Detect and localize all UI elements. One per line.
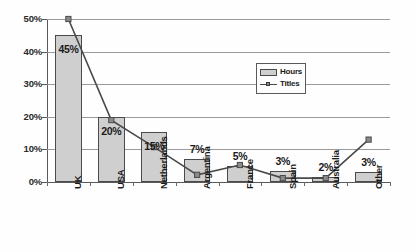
x-axis-tick-mark <box>219 182 220 186</box>
legend-entry-titles: Titles <box>260 78 302 90</box>
x-axis-category-label: Other <box>373 165 384 189</box>
y-axis-tick-label: 0% <box>2 176 42 187</box>
bar-data-label: 20% <box>91 125 131 137</box>
x-axis-tick-mark <box>47 182 48 186</box>
y-axis-tick-label: 40% <box>2 46 42 57</box>
legend-label-titles: Titles <box>280 79 300 89</box>
y-axis-tick-label: 30% <box>2 78 42 89</box>
bar-data-label: 45% <box>48 43 88 55</box>
line-marker-icon <box>260 81 277 88</box>
line-path <box>68 19 368 178</box>
x-axis-category-label: Argentina <box>201 146 212 189</box>
line-marker <box>323 176 328 181</box>
y-axis-tick-label: 20% <box>2 111 42 122</box>
line-marker <box>66 16 71 21</box>
bar-swatch-icon <box>260 69 277 76</box>
x-axis-category-label: Netherlands <box>158 136 169 189</box>
x-axis-tick-mark <box>390 182 391 186</box>
x-axis-tick-mark <box>133 182 134 186</box>
x-axis-category-label: France <box>244 159 255 189</box>
x-axis-category-label: Australia <box>330 150 341 189</box>
line-marker <box>366 137 371 142</box>
x-axis-category-label: UK <box>72 176 83 189</box>
x-axis-tick-mark <box>347 182 348 186</box>
x-axis-category-label: Spain <box>287 164 298 189</box>
x-axis-tick-mark <box>90 182 91 186</box>
line-marker <box>280 176 285 181</box>
legend-label-hours: Hours <box>280 67 302 77</box>
y-axis-tick-label: 50% <box>2 13 42 24</box>
chart-legend: Hours Titles <box>256 63 306 94</box>
legend-entry-hours: Hours <box>260 66 302 78</box>
x-axis-tick-mark <box>261 182 262 186</box>
line-marker <box>237 162 242 167</box>
x-axis-category-label: USA <box>115 170 126 189</box>
chart-container: 0%10%20%30%40%50% 45%20%15%7%5%3%2%3% UK… <box>0 0 417 252</box>
y-axis-tick-label: 10% <box>2 143 42 154</box>
line-marker <box>195 172 200 177</box>
x-axis-tick-mark <box>176 182 177 186</box>
x-axis-tick-mark <box>304 182 305 186</box>
line-marker <box>109 118 114 123</box>
